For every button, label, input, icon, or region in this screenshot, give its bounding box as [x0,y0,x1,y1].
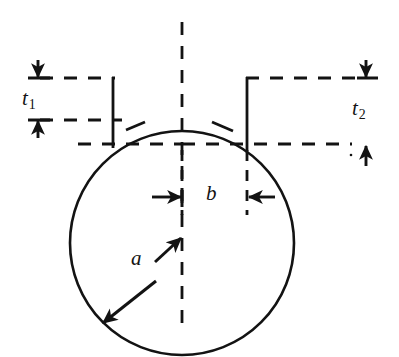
label-t2-subscript: 2 [358,107,366,122]
label-b: b [206,183,217,204]
fillet-hint-left [126,122,145,130]
radius-arrow-inner [155,238,181,262]
label-t1-subscript: 1 [28,97,36,112]
fillet-hint-right [212,122,233,131]
ink-speck [350,154,353,157]
diagram-svg [0,0,399,357]
figure-canvas: t1 t2 a b [0,0,399,357]
label-t2-symbol: t [352,96,358,120]
radius-arrow-outer [103,281,156,323]
label-t1: t1 [22,88,36,112]
label-a: a [131,248,142,269]
label-t2: t2 [352,98,366,122]
label-t1-symbol: t [22,86,28,110]
